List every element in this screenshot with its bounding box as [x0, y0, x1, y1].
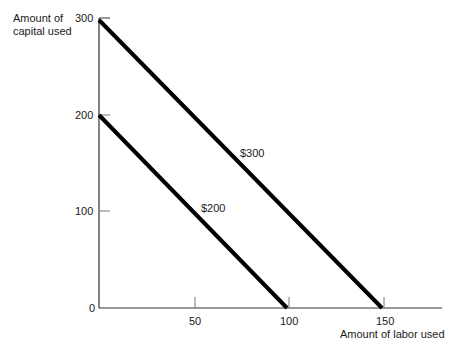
y-tick-label-100: 100 [75, 205, 93, 218]
y-axis-label-line1: Amount of [13, 12, 63, 25]
y-tick-label-300: 300 [75, 12, 93, 25]
x-axis-label: Amount of labor used [340, 328, 445, 341]
line-300 [99, 20, 382, 308]
x-tick-label-100: 100 [280, 315, 298, 328]
x-tick-label-150: 150 [376, 315, 394, 328]
series-label-200: $200 [201, 202, 225, 215]
chart-canvas [0, 0, 456, 354]
y-axis-label-line2: capital used [13, 25, 72, 38]
x-tick-label-50: 50 [189, 315, 201, 328]
line-200 [99, 115, 287, 308]
y-tick-label-0: 0 [89, 302, 95, 315]
y-tick-label-200: 200 [75, 109, 93, 122]
series-label-300: $300 [240, 147, 264, 160]
